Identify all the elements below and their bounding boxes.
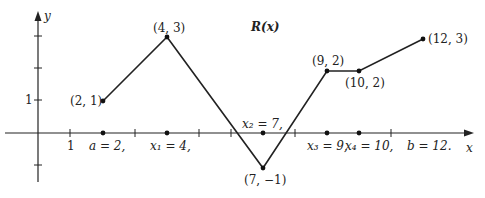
point-label-12-3: (12, 3) — [428, 32, 468, 46]
partition-label-x2: x₂ = 7, — [242, 117, 283, 131]
partition-label-x3: x₃ = 9, — [307, 139, 348, 153]
point-label-4-3: (4, 3) — [153, 21, 185, 35]
function-title: R(x) — [250, 20, 279, 34]
partition-label-x4: x₄ = 10, — [345, 139, 393, 153]
partition-label-b: b = 12. — [407, 139, 451, 153]
point-label-7-neg1: (7, −1) — [244, 173, 286, 187]
partition-label-x1: x₁ = 4, — [150, 139, 191, 153]
point-label-10-2: (10, 2) — [345, 76, 385, 90]
y-axis-label: y — [43, 9, 51, 23]
piecewise-linear-graph: y x 1 1 R(x) (2, 1) (4, 3) (7, −1) (9, 2… — [0, 0, 485, 198]
x-tick-label-1: 1 — [67, 139, 75, 153]
partition-label-a: a = 2, — [89, 139, 125, 153]
y-axis-arrow-icon — [35, 11, 42, 21]
x-axis-label: x — [466, 141, 473, 155]
point-label-2-1: (2, 1) — [70, 94, 102, 108]
x-axis-arrow-icon — [464, 130, 474, 137]
y-tick-label-1: 1 — [25, 93, 33, 107]
point-label-9-2: (9, 2) — [312, 54, 344, 68]
